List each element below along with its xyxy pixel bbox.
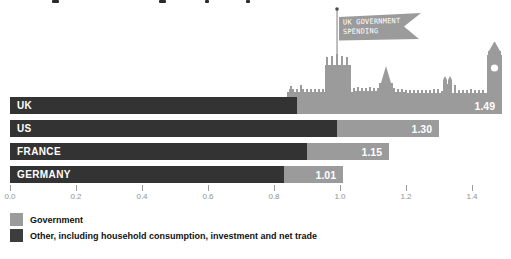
legend-item: Government — [10, 213, 83, 226]
axis-tick-label: 0.0 — [0, 193, 25, 201]
big-ben-clock-face — [491, 64, 498, 71]
legend-label: Government — [30, 215, 83, 225]
cropped-title-fragment — [159, 0, 166, 3]
axis-tick — [406, 185, 407, 191]
cropped-title-fragment — [205, 0, 209, 3]
axis-tick-label: 0.6 — [193, 193, 223, 201]
cropped-title-fragment — [52, 0, 59, 3]
cropped-title-fragment — [246, 0, 250, 3]
axis-tick — [340, 185, 341, 191]
legend-label: Other, including household consumption, … — [30, 231, 317, 241]
bar-row: US1.30 — [10, 120, 439, 137]
legend-swatch — [10, 229, 23, 242]
bar-category-label: GERMANY — [17, 170, 71, 180]
axis-tick — [472, 185, 473, 191]
axis-tick — [10, 185, 11, 191]
legend-swatch — [10, 213, 23, 226]
bar-value-label: 1.01 — [316, 169, 336, 180]
westminster-skyline-illustration: UK GOVERNMENT SPENDING — [285, 5, 511, 97]
bar-value-label: 1.15 — [362, 146, 382, 157]
axis-tick-label: 1.2 — [391, 193, 421, 201]
axis-tick-label: 0.2 — [61, 193, 91, 201]
bar-category-label: US — [17, 124, 32, 134]
bar-row: GERMANY1.01 — [10, 166, 343, 183]
bar-segment-government — [297, 97, 502, 114]
axis-tick — [208, 185, 209, 191]
bar-row: FRANCE1.15 — [10, 143, 389, 160]
bar-segment-other — [10, 120, 337, 137]
flag-text-line2: SPENDING — [343, 27, 379, 36]
legend-item: Other, including household consumption, … — [10, 229, 317, 242]
axis-tick — [142, 185, 143, 191]
bar-value-label: 1.49 — [475, 100, 495, 111]
axis-tick-label: 1.0 — [325, 193, 355, 201]
bar-row: UK1.49 — [10, 97, 502, 114]
infographic-bar-chart: UK GOVERNMENT SPENDING UK1.49US1.30FRANC… — [0, 0, 511, 259]
bar-category-label: UK — [17, 101, 32, 111]
axis-tick-label: 0.4 — [127, 193, 157, 201]
bar-category-label: FRANCE — [17, 147, 61, 157]
flag-pole-top-dot — [335, 7, 339, 11]
flag-text-line1: UK GOVERNMENT — [343, 17, 401, 27]
axis-tick-label: 1.4 — [457, 193, 487, 201]
axis-tick — [274, 185, 275, 191]
bar-value-label: 1.30 — [412, 123, 432, 134]
axis-tick — [76, 185, 77, 191]
bar-segment-other — [10, 97, 297, 114]
axis-tick-label: 0.8 — [259, 193, 289, 201]
parliament-silhouette — [287, 42, 502, 97]
